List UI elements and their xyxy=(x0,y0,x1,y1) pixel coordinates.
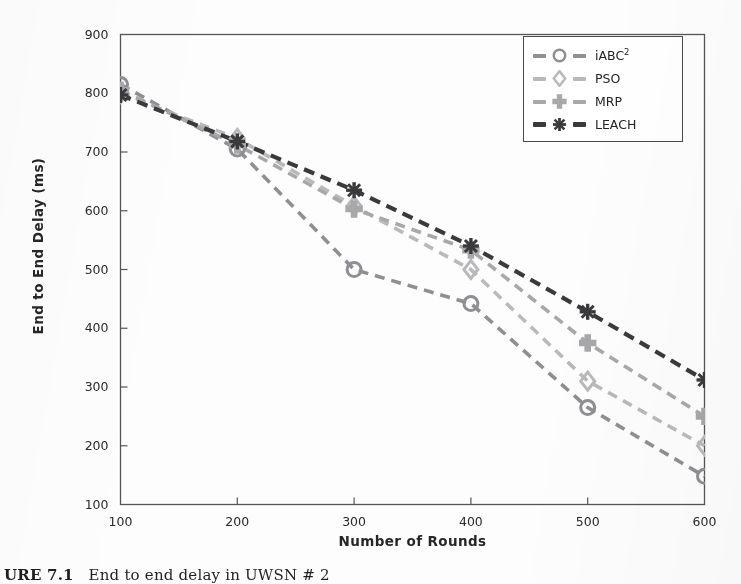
circle-marker xyxy=(554,50,565,61)
legend-dash-left xyxy=(533,100,546,104)
legend-item-pso[interactable]: PSO xyxy=(533,67,673,90)
legend-label-iabc2: iABC2 xyxy=(595,47,630,63)
legend-item-mrp[interactable]: MRP xyxy=(533,90,673,113)
legend-superscript: 2 xyxy=(624,47,629,57)
legend-dash-right xyxy=(573,77,586,81)
circle-icon xyxy=(551,47,568,64)
y-tick-label: 900 xyxy=(63,27,109,42)
x-tick-label: 600 xyxy=(675,514,735,529)
y-axis-ticks xyxy=(121,93,128,446)
y-tick-label: 300 xyxy=(63,379,109,394)
y-tick-label: 400 xyxy=(63,320,109,335)
star-marker xyxy=(463,238,479,254)
y-tick-label: 700 xyxy=(63,144,109,159)
legend-dash-left xyxy=(533,77,546,81)
legend-label-pso: PSO xyxy=(595,71,620,86)
x-tick-label: 500 xyxy=(558,514,618,529)
legend-dash-left xyxy=(533,122,546,127)
series-iabc2 xyxy=(121,84,705,476)
circle-marker xyxy=(464,297,478,311)
plus-diamond-marker xyxy=(553,95,566,108)
star-marker xyxy=(113,87,129,103)
circle-marker xyxy=(347,263,361,277)
legend-item-leach[interactable]: LEACH xyxy=(533,113,673,136)
star-icon xyxy=(551,116,568,133)
figure-caption: URE 7.1 End to end delay in UWSN # 2 xyxy=(4,566,330,584)
diamond-marker xyxy=(554,71,565,86)
y-tick-label: 100 xyxy=(63,497,109,512)
chart-plot-area: End to End Delay (ms) Number of Rounds 1… xyxy=(0,0,741,584)
series-pso xyxy=(121,93,705,446)
star-marker xyxy=(553,118,566,131)
plus-diamond-icon xyxy=(551,93,568,110)
chart-legend: iABC2 PSO MRP LEACH xyxy=(523,36,683,142)
star-marker xyxy=(697,372,713,388)
legend-dash-left xyxy=(533,54,546,58)
legend-dash-right xyxy=(573,54,586,58)
y-tick-label: 800 xyxy=(63,85,109,100)
y-tick-label: 600 xyxy=(63,203,109,218)
legend-label-mrp: MRP xyxy=(595,94,622,109)
y-tick-label: 500 xyxy=(63,262,109,277)
diamond-icon xyxy=(551,70,568,87)
star-marker xyxy=(229,133,245,149)
y-axis-title: End to End Delay (ms) xyxy=(30,116,46,376)
x-tick-label: 300 xyxy=(324,514,384,529)
figure-caption-text: End to end delay in UWSN # 2 xyxy=(89,566,330,584)
x-tick-label: 400 xyxy=(441,514,501,529)
figure-caption-prefix: URE 7.1 xyxy=(4,566,74,584)
legend-dash-right xyxy=(573,122,586,127)
x-tick-label: 200 xyxy=(207,514,267,529)
x-axis-ticks xyxy=(237,498,587,505)
legend-dash-right xyxy=(573,100,586,104)
y-tick-label: 200 xyxy=(63,438,109,453)
x-tick-label: 100 xyxy=(91,514,151,529)
star-marker xyxy=(346,182,362,198)
star-marker xyxy=(580,304,596,320)
legend-item-iabc2[interactable]: iABC2 xyxy=(533,44,673,67)
x-axis-title: Number of Rounds xyxy=(120,533,705,549)
figure-root: End to End Delay (ms) Number of Rounds 1… xyxy=(0,0,741,584)
legend-label-leach: LEACH xyxy=(595,117,636,132)
